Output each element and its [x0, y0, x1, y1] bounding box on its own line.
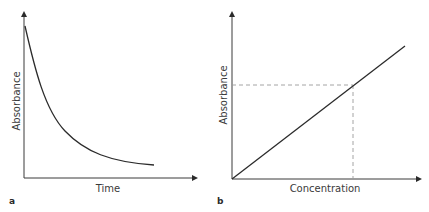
panel-b-label: b: [217, 196, 224, 206]
panel-a-decay-curve: [25, 26, 154, 165]
panel-b-chart: Absorbance Concentration b: [217, 14, 419, 206]
figure: Absorbance Time a Absorbance Concentrati…: [0, 0, 429, 212]
panel-a-chart: Absorbance Time a: [9, 14, 195, 206]
panel-b-ylabel: Absorbance: [218, 65, 229, 124]
panel-a-ylabel: Absorbance: [11, 71, 22, 130]
panel-b-xlabel: Concentration: [290, 183, 361, 194]
panel-a-xlabel: Time: [95, 183, 120, 194]
panel-a-label: a: [9, 196, 15, 206]
panel-b-linear-line: [232, 46, 405, 179]
